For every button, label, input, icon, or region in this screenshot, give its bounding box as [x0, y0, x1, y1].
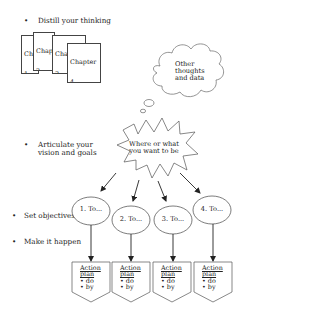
arrow-icon	[158, 181, 166, 201]
action-plan-3: Action plan • do • by	[161, 265, 182, 291]
objective-label-2: 2. To...	[112, 216, 150, 223]
objective-label-4: 4. To...	[193, 206, 231, 213]
action-plan-4: Action plan • do • by	[202, 265, 223, 291]
action-plan-2: Action plan • do • by	[120, 265, 141, 291]
objective-ellipses	[72, 196, 231, 234]
arrow-icon	[180, 173, 200, 193]
vision-burst-text: Where or what you want to be	[114, 141, 194, 155]
action-plan-item: • by	[80, 284, 101, 290]
objective-label-1: 1. To...	[72, 206, 110, 213]
action-plan-item: • by	[161, 284, 182, 290]
arrows-to-objectives	[101, 173, 200, 201]
cloud-line: and data	[175, 75, 216, 82]
action-plan-1: Action plan • do • by	[80, 265, 101, 291]
action-plan-item: • by	[202, 284, 223, 290]
arrow-icon	[133, 180, 139, 201]
burst-line: you want to be	[114, 148, 194, 155]
thought-cloud-text: Other thoughts and data	[160, 61, 216, 83]
action-plan-item: • by	[120, 284, 141, 290]
arrow-icon	[101, 173, 116, 191]
objective-label-3: 3. To...	[154, 216, 192, 223]
arrows-to-action-plans	[91, 224, 213, 261]
